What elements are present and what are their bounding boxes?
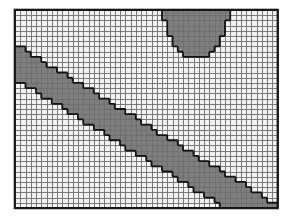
raster-grid-figure [0,0,288,220]
raster-grid-canvas [0,0,288,220]
